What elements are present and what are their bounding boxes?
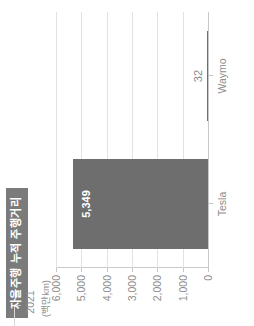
y-tick-mark [132,268,133,272]
y-tick-mark [183,268,184,272]
y-tick-mark [107,268,108,272]
y-tick-label: 2,000 [151,275,163,301]
secondary-line-chart: 거리 2021 [0,286,40,326]
bar-value-label: 32 [192,70,204,82]
secondary-plot-area: 2021 [4,298,40,326]
y-tick-label: 6,000 [50,275,62,301]
y-tick-label: 1,000 [177,275,189,301]
secondary-x-tick [16,305,21,306]
y-tick-label: 0 [202,275,214,281]
main-chart-rotation-wrapper: 자율주행 누적 주행거리 (백만km) 01,0002,0003,0004,00… [0,0,254,326]
chart-page: 자율주행 누적 주행거리 (백만km) 01,0002,0003,0004,00… [0,0,254,326]
y-tick-mark [81,268,82,272]
bar-tesla[interactable]: 5,349 [73,159,209,249]
line-segment [14,306,15,326]
plot-area: 01,0002,0003,0004,0005,0006,000 5,349Tes… [56,12,208,268]
secondary-chart-rotation-wrapper: 거리 2021 [0,286,40,326]
x-axis-line [208,12,209,268]
x-tick-mark [208,75,213,76]
bar-value-label: 5,349 [80,190,92,218]
x-category-label-tesla: Tesla [216,192,228,217]
y-tick-label: 3,000 [126,275,138,301]
autonomous-driving-distance-chart: 자율주행 누적 주행거리 (백만km) 01,0002,0003,0004,00… [0,0,254,326]
y-tick-label: 4,000 [101,275,113,301]
y-tick-mark [208,268,209,272]
gridline [56,12,57,268]
y-tick-mark [56,268,57,272]
bar-waymo[interactable]: 32 [207,31,208,121]
x-category-label-waymo: Waymo [216,58,228,93]
y-tick-label: 5,000 [75,275,87,301]
y-tick-mark [157,268,158,272]
x-tick-mark [208,203,213,204]
secondary-x-tick-label: 2021 [24,290,36,313]
